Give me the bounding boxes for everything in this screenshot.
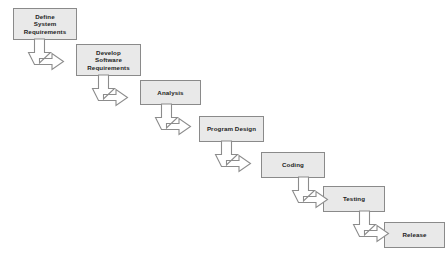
stage-box-testing[interactable]: Testing — [323, 186, 385, 212]
stage-box-analysis[interactable]: Analysis — [140, 80, 201, 105]
stage-box-release[interactable]: Release — [384, 222, 445, 248]
connector-arrow-3 — [152, 104, 206, 133]
connector-arrow-4 — [212, 141, 266, 170]
stage-label: Program Design — [207, 125, 256, 133]
stage-label: Define System Requirements — [24, 13, 66, 36]
waterfall-diagram-canvas: Define System Requirements Develop Softw… — [0, 0, 447, 254]
stage-label: Release — [402, 231, 426, 239]
stage-box-program-design[interactable]: Program Design — [199, 116, 264, 142]
stage-label: Analysis — [157, 89, 183, 97]
stage-box-develop-software-requirements[interactable]: Develop Software Requirements — [76, 44, 141, 76]
stage-label: Coding — [282, 161, 304, 169]
stage-label: Testing — [343, 195, 365, 203]
stage-box-coding[interactable]: Coding — [261, 152, 325, 178]
stage-box-define-system-requirements[interactable]: Define System Requirements — [13, 8, 77, 40]
stage-label: Develop Software Requirements — [87, 49, 129, 72]
connector-arrow-2 — [89, 75, 143, 104]
connector-arrow-1 — [25, 39, 79, 68]
